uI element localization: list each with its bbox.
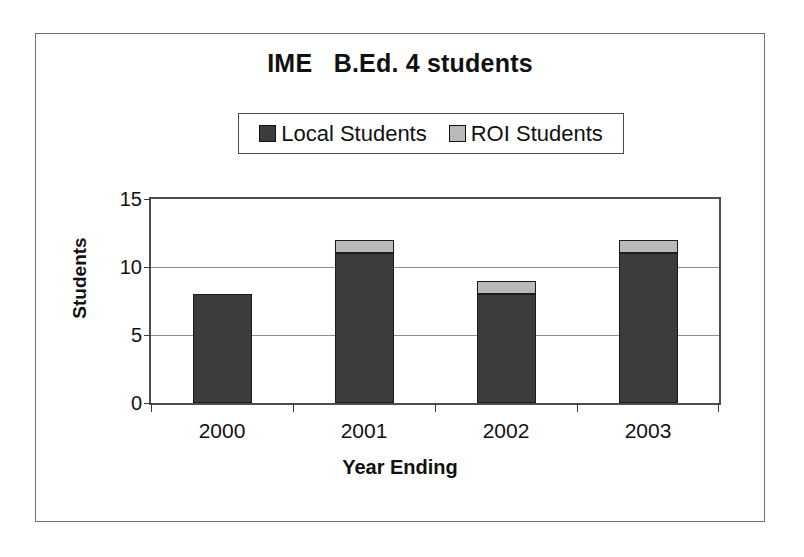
bar-segment-local-students-2003	[619, 253, 678, 403]
plot-area: 051015 2000200120022003	[149, 197, 721, 405]
bar-segment-roi-students-2003	[619, 240, 678, 254]
y-tick-mark	[144, 403, 151, 404]
legend-label-roi-students: ROI Students	[471, 123, 603, 145]
bar-segment-roi-students-2002	[477, 281, 536, 295]
y-tick-label: 10	[120, 257, 142, 277]
x-tick-label-2000: 2000	[199, 420, 246, 441]
bar-segment-local-students-2001	[335, 253, 394, 403]
x-tick-label-2002: 2002	[483, 420, 530, 441]
y-axis-title: Students	[69, 218, 91, 338]
y-tick-mark	[144, 199, 151, 200]
y-tick-label: 5	[131, 325, 142, 345]
bar-2000	[193, 294, 252, 403]
bar-2003	[619, 240, 678, 403]
x-tick-mark	[577, 403, 578, 412]
bar-2001	[335, 240, 394, 403]
legend-swatch-local-students	[259, 125, 276, 142]
bar-segment-local-students-2000	[193, 294, 252, 403]
chart-title: IME B.Ed. 4 students	[36, 49, 764, 78]
y-tick-mark	[144, 335, 151, 336]
legend-label-local-students: Local Students	[281, 123, 427, 145]
x-tick-mark	[718, 403, 719, 412]
x-tick-mark	[151, 403, 152, 412]
y-tick-mark	[144, 267, 151, 268]
chart-legend: Local Students ROI Students	[238, 113, 624, 154]
x-tick-mark	[435, 403, 436, 412]
x-tick-label-2001: 2001	[341, 420, 388, 441]
chart-frame: IME B.Ed. 4 students Local Students ROI …	[35, 33, 765, 522]
y-tick-label: 15	[120, 189, 142, 209]
x-tick-label-2003: 2003	[625, 420, 672, 441]
legend-swatch-roi-students	[449, 125, 466, 142]
legend-item-local-students: Local Students	[259, 123, 427, 145]
x-tick-mark	[293, 403, 294, 412]
bar-segment-local-students-2002	[477, 294, 536, 403]
bar-segment-roi-students-2001	[335, 240, 394, 254]
y-tick-label: 0	[131, 393, 142, 413]
bar-2002	[477, 281, 536, 403]
x-axis-title: Year Ending	[36, 456, 764, 479]
legend-item-roi-students: ROI Students	[449, 123, 603, 145]
